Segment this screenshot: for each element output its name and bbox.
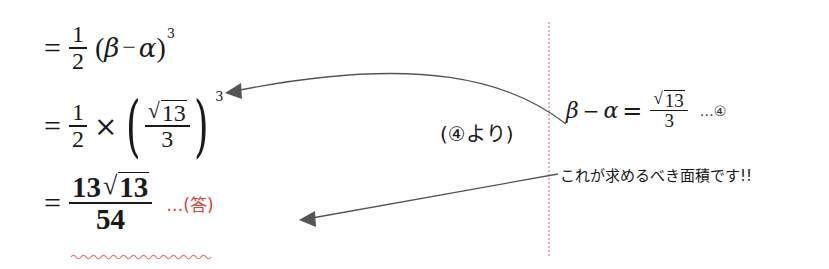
minus-sign: − (583, 99, 600, 123)
equation-4: β − α = √ 13 3 …④ (566, 90, 726, 131)
arrowhead-icon (225, 83, 242, 99)
curved-arrow-line (240, 73, 566, 124)
straight-arrow-line (312, 174, 558, 218)
equation-label: …④ (700, 103, 727, 119)
fraction-sqrt13-over-3: √ 13 3 (650, 90, 687, 131)
equals-sign: = (622, 97, 642, 125)
arrows-layer (0, 0, 829, 269)
callout-text: これが求めるべき面積です!! (560, 164, 752, 185)
alpha-symbol: α (603, 98, 618, 123)
radical-sign: √ (653, 90, 662, 108)
beta-symbol: β (566, 98, 579, 123)
arrowhead-icon (299, 211, 316, 227)
